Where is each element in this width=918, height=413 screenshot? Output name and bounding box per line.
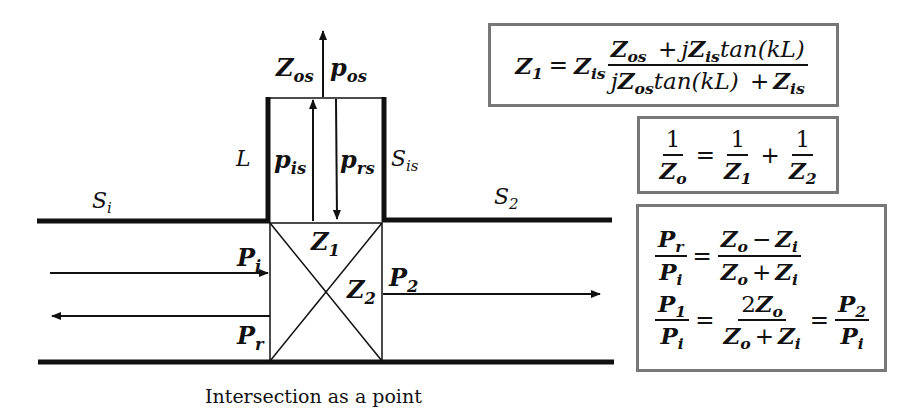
formula-parallel-impedance-box: 1 Zo = 1 Z1 + 1 Z2 <box>637 116 839 194</box>
z1-fraction: Zos +jZistan(kL) jZostan(kL) +Zis <box>608 36 808 95</box>
label-s-is: Sis <box>391 148 419 170</box>
label-p-is: pis <box>274 148 306 172</box>
label-z-1: Z1 <box>311 230 340 254</box>
z1-denominator: jZostan(kL) +Zis <box>608 66 808 94</box>
reflection-ratio: Pr Pi = Zo−Zi Zo+Zi <box>651 226 805 285</box>
inverse-z1: 1 Z1 <box>721 126 755 185</box>
label-p-2: P2 <box>389 266 418 290</box>
label-p-r: Pr <box>237 324 264 348</box>
label-z-os: Zos <box>276 56 314 80</box>
formula-pressure-ratios-box: Pr Pi = Zo−Zi Zo+Zi P1 Pi = 2Zo Zo+Zi = … <box>636 204 887 372</box>
z1-numerator: Zos +jZistan(kL) <box>608 36 808 66</box>
label-p-rs: prs <box>340 148 375 172</box>
label-s-2: S2 <box>494 186 519 208</box>
z1-lhs: Z1 <box>515 52 543 79</box>
inverse-zo: 1 Zo <box>656 126 689 185</box>
formula-parallel-impedance: 1 Zo = 1 Z1 + 1 Z2 <box>652 126 823 185</box>
inverse-z2: 1 Z2 <box>786 126 820 185</box>
equals-sign: = <box>549 52 568 78</box>
z-is-factor: Zis <box>574 52 606 79</box>
formula-z1: Z1 = Zis Zos +jZistan(kL) jZostan(kL) +Z… <box>515 36 812 95</box>
label-z-2: Z2 <box>347 278 376 302</box>
diagram-caption: Intersection as a point <box>205 385 422 407</box>
label-length-l: L <box>236 148 251 170</box>
label-p-os: pos <box>330 56 367 80</box>
label-s-i: Si <box>92 190 112 212</box>
reflected-side-wave-arrow <box>336 99 337 219</box>
transmission-ratio: P1 Pi = 2Zo Zo+Zi = P2 Pi <box>651 291 873 350</box>
formula-z1-box: Z1 = Zis Zos +jZistan(kL) jZostan(kL) +Z… <box>488 23 839 107</box>
label-p-i: Pi <box>237 246 261 270</box>
